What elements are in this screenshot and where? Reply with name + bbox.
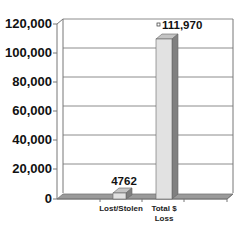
ytick-120000: 120,000 bbox=[5, 16, 52, 31]
bar-total-loss bbox=[156, 34, 178, 199]
data-label-marker-icon bbox=[157, 23, 160, 26]
data-label-total-loss: 111,970 bbox=[162, 19, 202, 31]
axis-walls bbox=[57, 19, 233, 199]
ytick-80000: 80,000 bbox=[12, 74, 52, 89]
xlabel-total-loss-line1: Total $ bbox=[151, 204, 177, 213]
gridlines bbox=[63, 19, 233, 164]
x-axis-labels: Lost/Stolen Total $ Loss bbox=[99, 204, 177, 223]
ytick-100000: 100,000 bbox=[5, 45, 52, 60]
xlabel-lost-stolen: Lost/Stolen bbox=[99, 204, 143, 213]
bar-chart: 120,000 100,000 80,000 60,000 40,000 20,… bbox=[0, 0, 244, 232]
y-axis-labels: 120,000 100,000 80,000 60,000 40,000 20,… bbox=[5, 16, 52, 206]
data-label-lost-stolen: 4762 bbox=[111, 175, 137, 187]
y-ticks bbox=[53, 24, 57, 199]
ytick-20000: 20,000 bbox=[12, 161, 52, 176]
floor bbox=[57, 194, 233, 202]
ytick-60000: 60,000 bbox=[12, 103, 52, 118]
xlabel-total-loss-line2: Loss bbox=[155, 214, 174, 223]
ytick-40000: 40,000 bbox=[12, 132, 52, 147]
ytick-0: 0 bbox=[45, 191, 52, 206]
